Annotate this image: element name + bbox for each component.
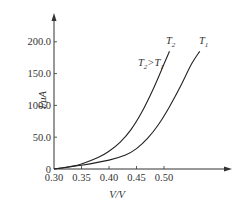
x-tick-label: 0.35 [72, 172, 90, 183]
x-tick-label: 0.45 [127, 172, 145, 183]
temperature-comparison-annotation: T2>T1 [138, 57, 164, 71]
y-axis-label: I/μA [37, 90, 48, 110]
x-axis-arrow-icon [224, 167, 232, 172]
x-tick-label: 0.40 [100, 172, 118, 183]
curve-label-t2: T2 [166, 35, 176, 49]
y-tick-label: 150.0 [27, 68, 51, 79]
x-tick-label: 0.50 [155, 172, 173, 183]
y-tick-label: 50.0 [33, 132, 51, 143]
y-tick-label: 200.0 [27, 36, 51, 47]
y-tick-label: 0 [46, 164, 51, 175]
curve-label-t1: T1 [199, 35, 208, 49]
curves [54, 51, 200, 169]
iv-characteristic-chart: 0.300.350.400.450.50050.0100.0150.0200.0… [0, 0, 240, 209]
curve-t2 [54, 51, 170, 169]
x-axis-label: V/V [109, 189, 126, 200]
curve-t1 [54, 51, 200, 169]
chart-svg: 0.300.350.400.450.50050.0100.0150.0200.0… [0, 0, 240, 209]
axes [52, 13, 233, 172]
y-axis-arrow-icon [52, 13, 57, 21]
